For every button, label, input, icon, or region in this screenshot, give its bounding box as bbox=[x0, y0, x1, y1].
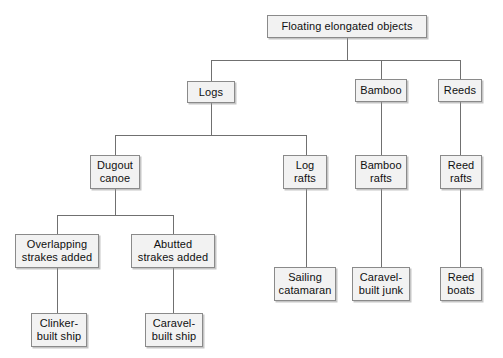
node-bamboo[interactable]: Bamboo bbox=[355, 79, 407, 102]
connector-dugout-drop bbox=[115, 135, 116, 155]
node-reeds[interactable]: Reeds bbox=[438, 79, 482, 102]
connector-abutted-caravel bbox=[173, 268, 174, 313]
connector-reeds-drop bbox=[460, 60, 461, 79]
connector-dugout-stem bbox=[115, 189, 116, 215]
node-label: Overlapping strakes added bbox=[22, 238, 92, 264]
connector-reedraft-reedboats bbox=[460, 189, 461, 267]
node-root[interactable]: Floating elongated objects bbox=[267, 15, 427, 38]
connector-logs-bus bbox=[115, 135, 306, 136]
node-reed-rafts[interactable]: Reed rafts bbox=[440, 155, 482, 189]
node-label: Caravel- built junk bbox=[359, 271, 403, 297]
node-label: Dugout canoe bbox=[97, 159, 133, 185]
node-log-rafts[interactable]: Log rafts bbox=[283, 155, 327, 189]
connector-logs-stem bbox=[211, 103, 212, 135]
connector-overlapping-drop bbox=[57, 215, 58, 234]
connector-dugout-bus bbox=[57, 215, 173, 216]
node-caravel-ship[interactable]: Caravel- built ship bbox=[145, 313, 203, 347]
connector-overlapping-clinker bbox=[57, 268, 58, 313]
connector-level1-bus bbox=[211, 60, 460, 61]
node-bamboo-rafts[interactable]: Bamboo rafts bbox=[355, 155, 407, 189]
node-clinker-ship[interactable]: Clinker- built ship bbox=[31, 313, 87, 347]
connector-abutted-drop bbox=[173, 215, 174, 234]
connector-bamboo-bambooraft bbox=[381, 102, 382, 155]
node-label: Reed rafts bbox=[448, 159, 475, 185]
connector-reeds-reedraft bbox=[460, 102, 461, 155]
connector-logs-drop bbox=[211, 60, 212, 81]
node-label: Logs bbox=[199, 86, 223, 99]
node-caravel-junk[interactable]: Caravel- built junk bbox=[352, 267, 410, 301]
diagram-canvas: Floating elongated objectsLogsBambooReed… bbox=[0, 0, 503, 358]
node-abutted[interactable]: Abutted strakes added bbox=[131, 234, 215, 268]
node-label: Floating elongated objects bbox=[281, 20, 412, 33]
node-label: Abutted strakes added bbox=[138, 238, 208, 264]
node-label: Caravel- built ship bbox=[152, 317, 196, 343]
node-label: Sailing catamaran bbox=[279, 271, 332, 297]
node-overlapping[interactable]: Overlapping strakes added bbox=[15, 234, 99, 268]
connector-root-stem bbox=[347, 38, 348, 60]
connector-lografts-sailing bbox=[306, 189, 307, 267]
node-dugout-canoe[interactable]: Dugout canoe bbox=[90, 155, 140, 189]
node-label: Bamboo rafts bbox=[360, 159, 402, 185]
connector-lografts-drop bbox=[306, 135, 307, 155]
node-reed-boats[interactable]: Reed boats bbox=[440, 267, 482, 301]
node-label: Reeds bbox=[444, 84, 476, 97]
connector-bamboo-drop bbox=[381, 60, 382, 79]
node-label: Reed boats bbox=[447, 271, 474, 297]
node-label: Bamboo bbox=[360, 84, 402, 97]
node-label: Clinker- built ship bbox=[37, 317, 81, 343]
node-label: Log rafts bbox=[294, 159, 316, 185]
node-logs[interactable]: Logs bbox=[187, 81, 235, 103]
node-sailing-catamaran[interactable]: Sailing catamaran bbox=[274, 267, 336, 301]
connector-bambooraft-junk bbox=[381, 189, 382, 267]
